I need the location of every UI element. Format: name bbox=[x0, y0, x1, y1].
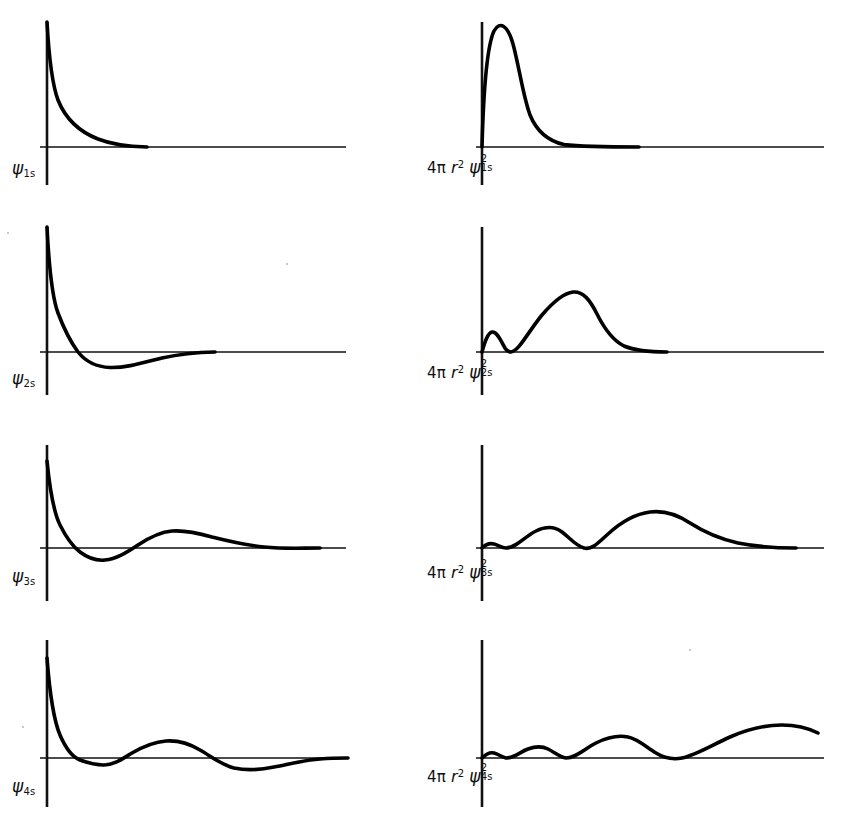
panel-psi-3s: ψ3s bbox=[0, 413, 424, 615]
radius-exponent: 2 bbox=[458, 159, 465, 170]
rdf-1s-label: 4π r2 ψ21s bbox=[427, 158, 491, 176]
psi-exponent-subscript: 23s bbox=[481, 563, 492, 578]
psi-1s-plot bbox=[0, 0, 424, 205]
psi-subscript: 1s bbox=[23, 168, 35, 179]
psi-2s-curve bbox=[47, 227, 215, 368]
rdf-4s-plot bbox=[424, 615, 847, 821]
rdf-2s-label: 4π r2 ψ22s bbox=[427, 363, 491, 381]
rdf-4s-label: 4π r2 ψ24s bbox=[427, 767, 491, 785]
rdf-3s-plot bbox=[424, 413, 847, 615]
psi-exponent-subscript: 22s bbox=[481, 363, 492, 378]
rdf-prefix: 4π bbox=[427, 768, 446, 786]
psi-4s-plot bbox=[0, 615, 424, 821]
orbital-wavefunction-figure: ψ1s 4π r2 ψ21s ψ2s 4π r2 ψ22s bbox=[0, 0, 847, 821]
panel-rdf-3s: 4π r2 ψ23s bbox=[424, 413, 847, 615]
psi-symbol: ψ bbox=[469, 157, 480, 177]
psi-2s-plot bbox=[0, 205, 424, 413]
radius-exponent: 2 bbox=[458, 564, 465, 575]
radius-variable: r bbox=[451, 563, 458, 582]
psi-3s-curve bbox=[47, 461, 320, 560]
rdf-2s-plot bbox=[424, 205, 847, 413]
psi-3s-label: ψ3s bbox=[12, 568, 36, 587]
radius-variable: r bbox=[451, 158, 458, 177]
psi-4s-curve bbox=[47, 658, 348, 770]
panel-psi-1s: ψ1s bbox=[0, 0, 424, 205]
psi-symbol: ψ bbox=[12, 566, 23, 586]
psi-symbol: ψ bbox=[469, 766, 480, 786]
psi-1s-curve bbox=[47, 22, 147, 147]
psi-1s-label: ψ1s bbox=[12, 160, 36, 179]
rdf-prefix: 4π bbox=[427, 159, 446, 177]
psi-3s-plot bbox=[0, 413, 424, 615]
rdf-3s-label: 4π r2 ψ23s bbox=[427, 563, 491, 581]
rdf-1s-curve bbox=[482, 25, 639, 147]
panel-rdf-1s: 4π r2 ψ21s bbox=[424, 0, 847, 205]
rdf-prefix: 4π bbox=[427, 564, 446, 582]
radius-exponent: 2 bbox=[458, 364, 465, 375]
panel-psi-2s: ψ2s bbox=[0, 205, 424, 413]
rdf-4s-curve bbox=[482, 725, 818, 759]
psi-symbol: ψ bbox=[12, 158, 23, 178]
psi-4s-label: ψ4s bbox=[12, 778, 36, 797]
rdf-3s-curve bbox=[482, 512, 796, 549]
rdf-prefix: 4π bbox=[427, 364, 446, 382]
psi-subscript: 2s bbox=[23, 378, 35, 389]
radius-variable: r bbox=[451, 363, 458, 382]
panel-rdf-2s: 4π r2 ψ22s bbox=[424, 205, 847, 413]
psi-exponent-subscript: 24s bbox=[481, 767, 492, 782]
radius-exponent: 2 bbox=[458, 768, 465, 779]
radius-variable: r bbox=[451, 767, 458, 786]
psi-symbol: ψ bbox=[12, 776, 23, 796]
psi-exponent-subscript: 21s bbox=[481, 158, 492, 173]
psi-symbol: ψ bbox=[469, 562, 480, 582]
panel-rdf-4s: 4π r2 ψ24s bbox=[424, 615, 847, 821]
rdf-2s-curve bbox=[482, 292, 667, 352]
psi-2s-label: ψ2s bbox=[12, 370, 36, 389]
psi-symbol: ψ bbox=[12, 368, 23, 388]
psi-symbol: ψ bbox=[469, 362, 480, 382]
psi-subscript: 3s bbox=[23, 576, 35, 587]
panel-psi-4s: ψ4s bbox=[0, 615, 424, 821]
psi-subscript: 4s bbox=[23, 786, 35, 797]
